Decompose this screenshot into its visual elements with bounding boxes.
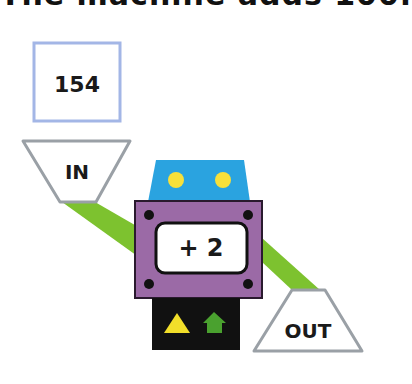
input-funnel: IN	[23, 141, 130, 202]
left-eye-icon	[168, 172, 184, 188]
right-eye-icon	[215, 172, 231, 188]
output-funnel-label: OUT	[285, 319, 332, 343]
machine-body: + 2	[135, 201, 262, 298]
machine-head	[148, 160, 250, 202]
output-belt	[262, 238, 320, 290]
input-belt	[62, 202, 140, 258]
machine-base	[152, 298, 240, 350]
bolt-icon	[243, 210, 253, 220]
input-funnel-label: IN	[65, 160, 89, 184]
input-number-box: 154	[34, 43, 120, 121]
output-funnel: OUT	[254, 290, 362, 351]
bolt-icon	[144, 279, 154, 289]
operation-label: + 2	[178, 234, 223, 262]
bolt-icon	[144, 210, 154, 220]
input-number: 154	[54, 72, 100, 97]
bolt-icon	[243, 279, 253, 289]
